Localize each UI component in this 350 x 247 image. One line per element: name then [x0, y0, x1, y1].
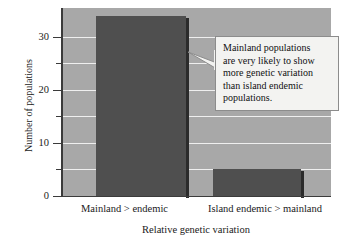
y-tick-5 [56, 169, 61, 170]
annotation-line-0: Mainland populations [223, 42, 332, 55]
y-tick-30 [53, 37, 61, 38]
y-tick-label-30: 30 [39, 32, 50, 43]
y-axis-title: Number of populations [23, 16, 34, 196]
callout-pointer-icon [188, 50, 217, 70]
y-tick-label-10: 10 [39, 138, 50, 149]
y-axis-line [61, 8, 62, 197]
bar-chart-figure: 30 20 10 0 Number of populations Mainlan… [0, 0, 350, 247]
y-tick-label-0: 0 [44, 191, 49, 202]
bar-shadow [186, 18, 189, 198]
annotation-callout: Mainland populations are very likely to … [215, 36, 339, 111]
y-tick-20 [53, 90, 61, 91]
y-tick-25 [56, 63, 61, 64]
y-tick-0 [53, 196, 61, 197]
annotation-line-2: more genetic variation [223, 67, 332, 80]
bar-island-endemic-greater-than-mainland [213, 169, 301, 196]
y-tick-15 [56, 116, 61, 117]
x-category-label-1: Island endemic > mainland [190, 203, 340, 214]
annotation-line-1: are very likely to show [223, 55, 332, 68]
annotation-line-3: than island endemic [223, 80, 332, 93]
x-axis-line [61, 196, 331, 197]
x-axis-title: Relative genetic variation [62, 224, 330, 235]
x-category-label-0: Mainland > endemic [62, 203, 187, 214]
bar-mainland-greater-than-endemic [96, 16, 186, 196]
y-tick-10 [53, 143, 61, 144]
bar-shadow [301, 171, 304, 198]
y-tick-label-20: 20 [39, 85, 50, 96]
annotation-line-4: populations. [223, 92, 332, 105]
